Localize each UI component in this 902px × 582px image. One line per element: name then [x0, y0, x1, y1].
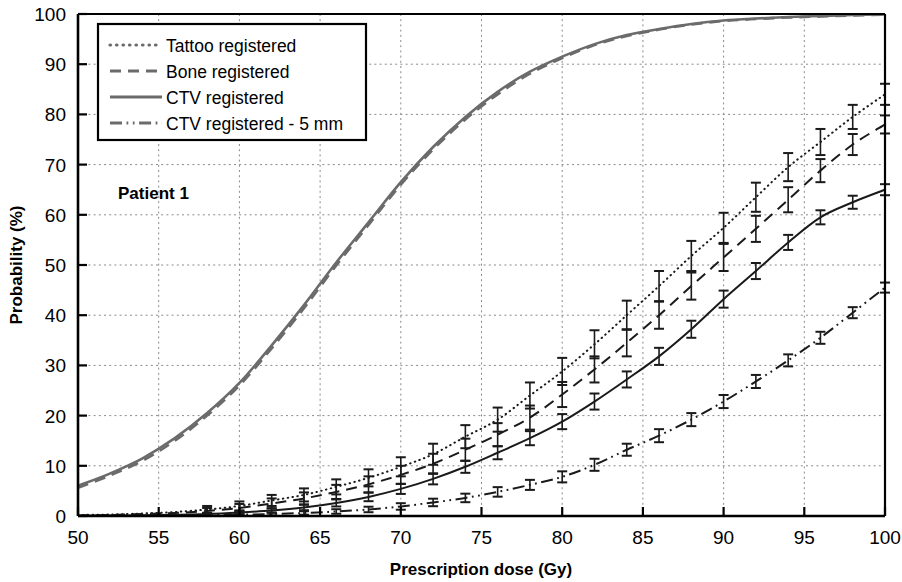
error-bar: [428, 473, 438, 484]
y-tick-label: 20: [45, 406, 66, 427]
legend: Tattoo registeredBone registeredCTV regi…: [98, 24, 366, 140]
x-tick-label: 55: [148, 527, 169, 548]
y-tick-label: 50: [45, 255, 66, 276]
y-axis-title: Probability (%): [7, 205, 26, 324]
legend-label: Tattoo registered: [166, 36, 296, 56]
y-tick-label: 70: [45, 155, 66, 176]
error-bar: [719, 395, 729, 408]
error-bar: [525, 431, 535, 445]
error-bar: [751, 216, 761, 242]
error-bar: [557, 471, 567, 482]
error-bar: [557, 414, 567, 429]
error-bar: [589, 459, 599, 471]
y-tick-label: 60: [45, 205, 66, 226]
y-tick-label: 100: [34, 4, 66, 25]
legend-label: CTV registered - 5 mm: [166, 114, 343, 134]
error-bar: [460, 461, 470, 473]
x-tick-label: 75: [471, 527, 492, 548]
error-bar: [686, 321, 696, 338]
error-bar: [751, 183, 761, 212]
y-tick-label: 90: [45, 54, 66, 75]
y-tick-label: 80: [45, 104, 66, 125]
y-tick-label: 30: [45, 355, 66, 376]
error-bar: [815, 332, 825, 344]
error-bar: [719, 291, 729, 308]
error-bar: [719, 213, 729, 243]
y-tick-label: 10: [45, 456, 66, 477]
y-tick-label: 40: [45, 305, 66, 326]
error-bar: [589, 394, 599, 410]
error-bar: [654, 348, 664, 365]
errorbar-layer: [202, 84, 890, 516]
error-bar: [299, 511, 309, 515]
error-bar: [848, 105, 858, 129]
x-tick-label: 80: [552, 527, 573, 548]
x-tick-label: 90: [713, 527, 734, 548]
probability-dose-plot: 50556065707580859095100 0102030405060708…: [0, 0, 902, 582]
error-bar: [622, 329, 632, 356]
error-bar: [751, 375, 761, 388]
x-tick-label: 65: [310, 527, 331, 548]
x-tick-label: 100: [869, 527, 901, 548]
error-bar: [783, 354, 793, 366]
error-bar: [493, 423, 503, 446]
error-bar: [783, 153, 793, 181]
error-bar: [848, 196, 858, 209]
error-bar: [686, 241, 696, 271]
legend-label: Bone registered: [166, 62, 290, 82]
error-bar: [783, 235, 793, 250]
error-bar: [493, 446, 503, 459]
error-bar: [460, 439, 470, 461]
error-bar: [525, 480, 535, 490]
x-tick-label: 85: [632, 527, 653, 548]
error-bar: [557, 358, 567, 385]
error-bar: [815, 129, 825, 155]
error-bar: [719, 244, 729, 271]
chart-figure: 50556065707580859095100 0102030405060708…: [0, 0, 902, 582]
error-bar: [589, 330, 599, 358]
error-bar: [815, 210, 825, 224]
patient-annotation: Patient 1: [118, 184, 189, 203]
error-bar: [848, 134, 858, 155]
error-bar: [331, 509, 341, 514]
error-bar: [622, 371, 632, 387]
legend-label: CTV registered: [166, 88, 284, 108]
x-tick-labels: 50556065707580859095100: [67, 527, 900, 548]
x-tick-label: 95: [794, 527, 815, 548]
error-bar: [622, 444, 632, 456]
error-bar: [686, 413, 696, 426]
error-bar: [686, 273, 696, 300]
x-tick-label: 70: [390, 527, 411, 548]
y-tick-labels: 0102030405060708090100: [34, 4, 66, 527]
x-tick-label: 60: [229, 527, 250, 548]
x-axis-title: Prescription dose (Gy): [390, 560, 572, 579]
error-bar: [783, 187, 793, 212]
error-bar: [589, 356, 599, 382]
error-bar: [654, 429, 664, 442]
y-tick-label: 0: [55, 506, 66, 527]
error-bar: [654, 271, 664, 301]
x-tick-label: 50: [67, 527, 88, 548]
error-bar: [815, 159, 825, 182]
